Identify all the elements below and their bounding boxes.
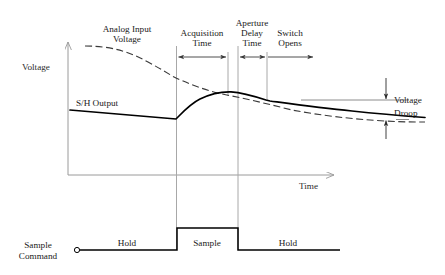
axes-group (68, 42, 334, 175)
time-axis-label: Time (299, 181, 318, 191)
voltage-droop-annotation: Voltage Droop (301, 78, 422, 139)
sh-output-label: S/H Output (76, 98, 119, 108)
voltage-axis-label: Voltage (22, 62, 50, 72)
analog-input-label-line2: Voltage (113, 34, 141, 44)
aperture-label-line1: Aperture (236, 18, 269, 28)
state-label-hold-1: Hold (118, 238, 137, 248)
interval-acquisition: Acquisition Time (179, 28, 227, 57)
interval-aperture-delay: Aperture Delay Time (236, 18, 269, 57)
acquisition-label-line1: Acquisition (181, 28, 224, 38)
sample-hold-timing-diagram: Voltage Time Acquisition Time Aperture D… (0, 0, 445, 275)
interval-switch-opens: Switch Opens (268, 28, 313, 57)
state-label-hold-2: Hold (279, 238, 298, 248)
sample-command-label-line2: Command (19, 251, 58, 261)
sample-command-label-line1: Sample (24, 240, 52, 250)
sh-output-curve (70, 92, 425, 119)
guide-lines-group (177, 46, 268, 250)
droop-label-line2: Droop (394, 108, 418, 118)
analog-input-label-line1: Analog Input (103, 24, 152, 34)
aperture-label-line3: Time (242, 38, 261, 48)
switch-opens-label-line1: Switch (277, 28, 303, 38)
droop-label-line1: Voltage (394, 95, 422, 105)
state-label-sample: Sample (193, 238, 221, 248)
aperture-label-line2: Delay (241, 28, 263, 38)
sample-command-group: Sample Command Hold Sample Hold (19, 228, 340, 261)
acquisition-label-line2: Time (192, 38, 211, 48)
switch-opens-label-line2: Opens (278, 38, 302, 48)
sample-command-terminal (74, 247, 79, 252)
